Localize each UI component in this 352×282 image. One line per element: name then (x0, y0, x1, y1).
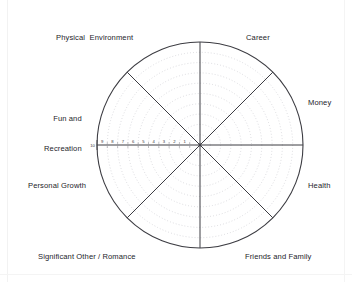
segment-label-fun-and-recreation-line1: Fun and (44, 114, 82, 124)
scale-number-5: 5 (142, 139, 145, 144)
segment-label-fun-and-recreation: Fun and Recreation (44, 94, 82, 174)
scale-number-6: 6 (132, 139, 135, 144)
segment-label-health: Health (308, 181, 331, 191)
scale-number-3: 3 (163, 139, 166, 144)
scale-number-4: 4 (153, 139, 156, 144)
segment-label-fun-and-recreation-line2: Recreation (44, 144, 82, 154)
segment-label-friends-and-family: Friends and Family (245, 252, 311, 262)
segment-label-career: Career (246, 33, 270, 43)
scale-number-9: 9 (101, 139, 104, 144)
segment-label-personal-growth: Personal Growth (28, 181, 86, 191)
scale-number-10: 10 (90, 143, 95, 148)
scale-number-2: 2 (173, 139, 176, 144)
scale-number-1: 1 (183, 139, 186, 144)
segment-label-money: Money (308, 98, 331, 108)
scale-number-8: 8 (111, 139, 114, 144)
wheel-of-life-page: 10 9 8 7 6 5 4 3 2 1 Physical Environmen… (0, 0, 352, 282)
segment-label-physical-environment: Physical Environment (56, 33, 133, 43)
segment-label-significant-other-romance: Significant Other / Romance (38, 252, 136, 262)
wheel-center-point (199, 144, 202, 147)
scale-number-7: 7 (122, 139, 125, 144)
